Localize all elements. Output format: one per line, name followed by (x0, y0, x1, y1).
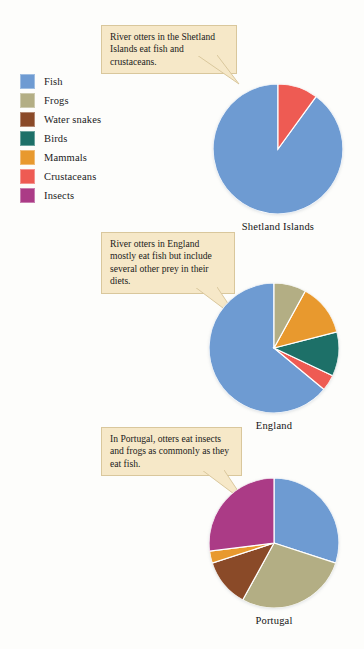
legend-item-insects: Insects (20, 186, 140, 205)
pie-caption-england: England (209, 420, 339, 431)
pie-graphic-portugal (209, 478, 339, 608)
legend-label-birds: Birds (44, 132, 68, 145)
legend-swatch-water-snakes (20, 112, 35, 127)
callout-portugal: In Portugal, otters eat insects and frog… (101, 427, 242, 476)
legend-label-frogs: Frogs (44, 94, 69, 107)
legend-label-water-snakes: Water snakes (44, 113, 101, 126)
legend-label-crustaceans: Crustaceans (44, 170, 96, 183)
legend-label-insects: Insects (44, 189, 74, 202)
legend-item-crustaceans: Crustaceans (20, 167, 140, 186)
legend-swatch-birds (20, 131, 35, 146)
callout-shetland: River otters in the Shetland Islands eat… (101, 25, 237, 74)
legend-swatch-insects (20, 188, 35, 203)
legend-item-fish: Fish (20, 72, 140, 91)
legend-label-mammals: Mammals (44, 151, 87, 164)
legend-swatch-fish (20, 74, 35, 89)
legend: Fish Frogs Water snakes Birds Mammals Cr… (20, 72, 140, 205)
legend-item-birds: Birds (20, 129, 140, 148)
pie-chart-portugal: Portugal (209, 478, 339, 626)
pie-caption-portugal: Portugal (209, 615, 339, 626)
legend-swatch-crustaceans (20, 169, 35, 184)
pie-graphic-england (209, 283, 339, 413)
pie-slice (209, 478, 274, 551)
legend-item-water-snakes: Water snakes (20, 110, 140, 129)
legend-swatch-mammals (20, 150, 35, 165)
legend-item-mammals: Mammals (20, 148, 140, 167)
pie-chart-shetland: Shetland Islands (213, 84, 343, 232)
pie-caption-shetland: Shetland Islands (213, 221, 343, 232)
pie-chart-england: England (209, 283, 339, 431)
legend-label-fish: Fish (44, 75, 63, 88)
legend-swatch-frogs (20, 93, 35, 108)
legend-item-frogs: Frogs (20, 91, 140, 110)
pie-graphic-shetland (213, 84, 343, 214)
